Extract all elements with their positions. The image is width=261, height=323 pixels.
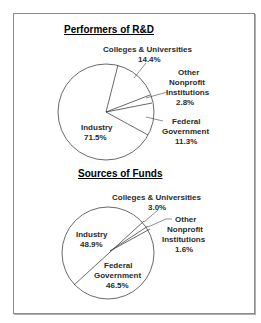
value-federal: 46.5% (106, 281, 129, 290)
label-nonprofit-3: Institutions (166, 88, 210, 97)
label-federal-1: Federal (104, 261, 132, 270)
pie-chart-performers: Performers of R&D Industry 71.5% College… (58, 24, 210, 160)
value-colleges: 3.0% (148, 203, 166, 212)
pie-chart-sources: Sources of Funds Industry 48.9% Colleges… (62, 168, 206, 299)
label-nonprofit-1: Other (175, 215, 196, 224)
label-federal-2: Government (94, 271, 141, 280)
value-nonprofit: 2.8% (176, 98, 194, 107)
label-nonprofit-2: Nonprofit (167, 225, 203, 234)
value-industry: 71.5% (84, 133, 107, 142)
chart-title-sources: Sources of Funds (78, 168, 163, 179)
value-federal: 11.3% (175, 137, 197, 146)
label-federal-1: Federal (172, 117, 200, 126)
label-colleges: Colleges & Universities (103, 45, 192, 54)
label-nonprofit-3: Institutions (162, 235, 206, 244)
label-nonprofit-1: Other (178, 68, 199, 77)
leader-line (134, 63, 146, 78)
value-colleges: 14.4% (138, 55, 161, 64)
label-industry: Industry (81, 123, 113, 132)
leader-line (148, 219, 166, 227)
value-industry: 48.9% (80, 240, 103, 249)
charts-canvas: Performers of R&D Industry 71.5% College… (0, 0, 261, 323)
label-industry: Industry (76, 230, 108, 239)
label-federal-2: Government (162, 127, 209, 136)
chart-title-performers: Performers of R&D (64, 24, 154, 35)
label-nonprofit-2: Nonprofit (169, 78, 205, 87)
value-nonprofit: 1.6% (175, 245, 193, 254)
label-colleges: Colleges & Universities (112, 193, 201, 202)
